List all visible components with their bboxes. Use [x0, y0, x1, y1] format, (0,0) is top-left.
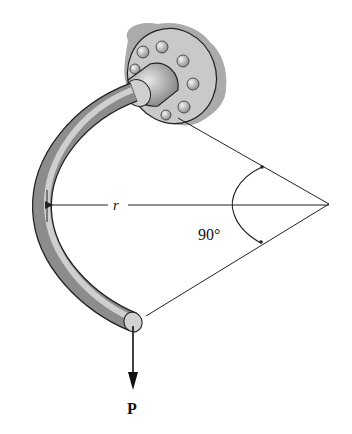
angle-label: 90°	[198, 226, 220, 243]
upper-radial-line	[178, 118, 329, 204]
load-arrow-head	[128, 372, 138, 390]
angle-arc-upper-tick	[260, 165, 264, 169]
angle-arc-lower-tick	[259, 240, 263, 244]
radius-label: r	[113, 197, 119, 213]
diagram-canvas: r 90° P	[0, 0, 352, 434]
load-label: P	[127, 400, 137, 417]
